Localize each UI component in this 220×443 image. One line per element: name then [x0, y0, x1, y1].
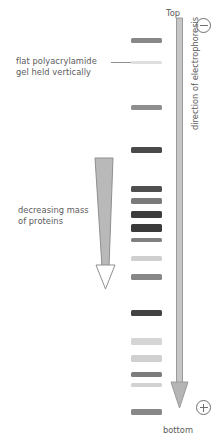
protein-band [131, 38, 162, 43]
decreasing-mass-label: decreasing mass of proteins [18, 205, 89, 227]
arrow-shaft-icon [177, 18, 183, 386]
protein-band [131, 224, 162, 232]
protein-band [131, 105, 162, 110]
protein-band [131, 274, 162, 280]
plus-glyph [197, 401, 210, 414]
protein-band [131, 372, 162, 377]
decreasing-mass-wedge-arrow-icon [90, 155, 124, 295]
bottom-label: bottom [163, 425, 193, 435]
protein-band [131, 383, 162, 387]
protein-band [131, 238, 162, 242]
arrow-head-icon [171, 382, 188, 408]
protein-band [131, 147, 162, 153]
protein-band [131, 355, 162, 362]
minus-glyph [197, 19, 210, 32]
wedge-arrowhead-icon [96, 265, 115, 289]
gel-description-label: flat polyacrylamide gel held vertically [16, 56, 97, 78]
protein-band [131, 310, 162, 316]
positive-electrode-icon [196, 400, 211, 415]
protein-band [131, 256, 162, 261]
electrophoresis-direction-arrow-icon [168, 16, 192, 421]
gel-lane [131, 0, 162, 443]
protein-band [131, 211, 162, 218]
protein-band [131, 338, 162, 345]
protein-band [131, 61, 162, 64]
protein-band [131, 186, 162, 192]
protein-band [131, 198, 162, 204]
protein-band [131, 409, 162, 415]
gel-electrophoresis-diagram: flat polyacrylamide gel held vertically … [0, 0, 220, 443]
negative-electrode-icon [196, 18, 211, 33]
wedge-body-icon [95, 158, 113, 267]
